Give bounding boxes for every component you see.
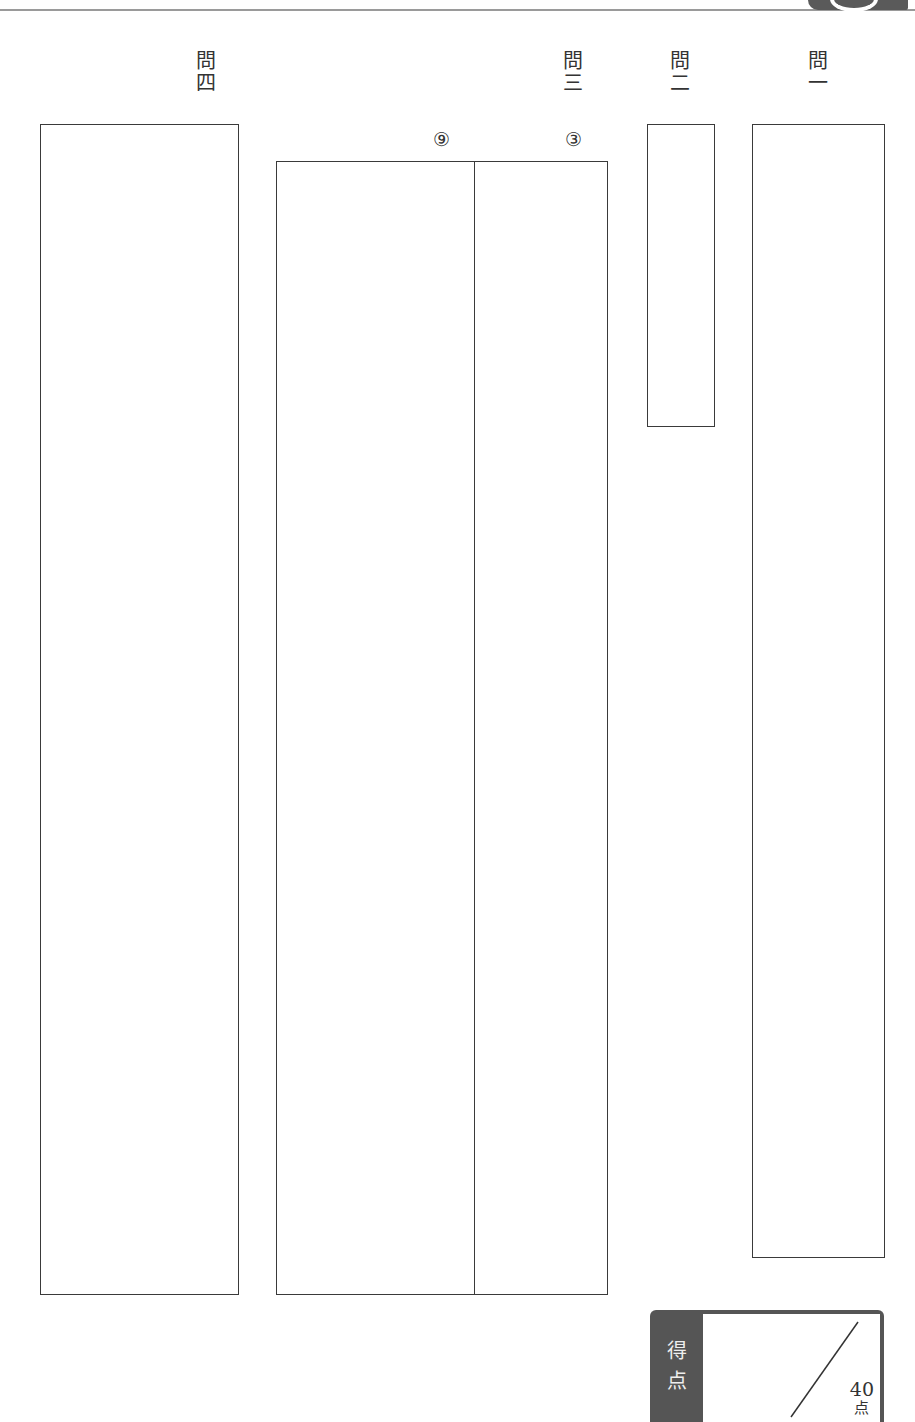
header-rule <box>0 9 915 11</box>
question-3-divider <box>474 161 475 1295</box>
question-1-label: 問 一 <box>806 50 830 94</box>
question-3-sub-9-answer-field[interactable] <box>278 163 473 1293</box>
question-3-sub-9-label: ⑨ <box>428 128 454 150</box>
question-1-answer-box[interactable] <box>752 124 885 1258</box>
question-3-sub-3-label: ③ <box>560 128 586 150</box>
question-3-label: 問 三 <box>561 50 585 94</box>
question-4-answer-box[interactable] <box>40 124 239 1295</box>
question-3-sub-3-answer-field[interactable] <box>476 163 606 1293</box>
score-input-field[interactable]: 40 点 <box>703 1314 880 1422</box>
question-2-label: 問 二 <box>668 50 692 94</box>
question-4-label: 問 四 <box>194 50 218 94</box>
score-panel: 得 点 40 点 <box>650 1310 884 1422</box>
score-max-points: 40 点 <box>850 1380 874 1418</box>
question-2-answer-box[interactable] <box>647 124 715 427</box>
score-label: 得 点 <box>650 1310 703 1422</box>
